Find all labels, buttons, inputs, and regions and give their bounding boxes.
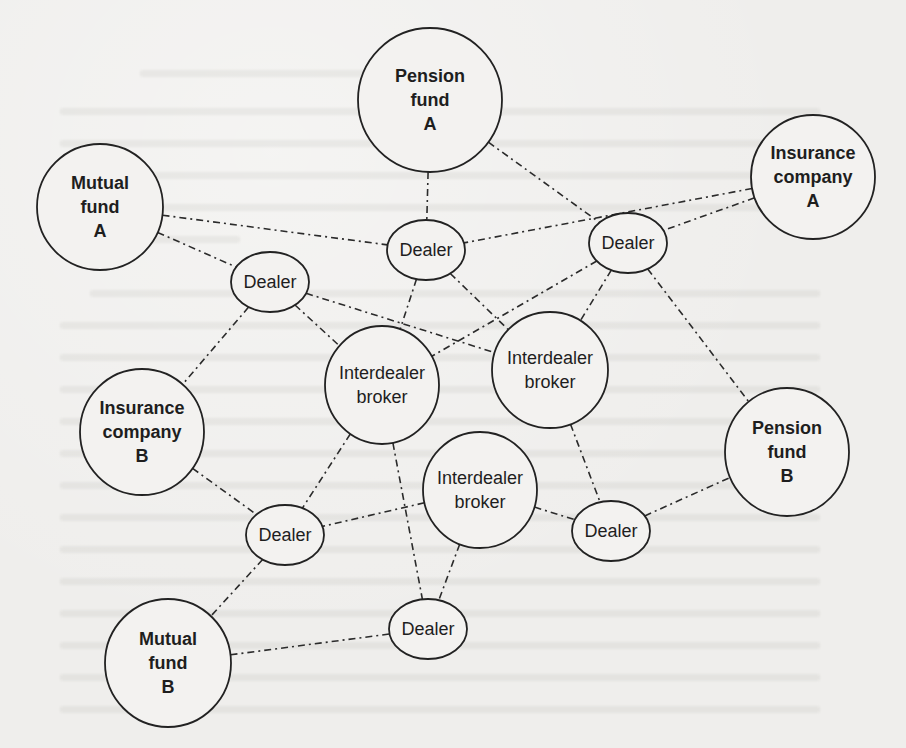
node-label-line: Dealer — [601, 233, 654, 253]
edge-dealer_top_right-to-pension_fund_b — [648, 269, 749, 402]
node-label-line: fund — [768, 442, 807, 462]
edge-interdealer_broker_center-to-dealer_lower_left — [302, 434, 350, 508]
node-label-line: A — [94, 221, 107, 241]
edge-dealer_lower_left-to-mutual_fund_b — [211, 560, 263, 617]
node-label-line: broker — [454, 492, 505, 512]
edge-interdealer_broker_lower-to-dealer_bottom — [439, 544, 460, 600]
node-insurance-company-a: InsurancecompanyA — [751, 115, 875, 239]
node-label-line: broker — [356, 387, 407, 407]
node-interdealer-broker-center: Interdealerbroker — [325, 326, 439, 444]
node-dealer-bottom: Dealer — [389, 599, 467, 659]
node-label-line: Interdealer — [507, 348, 593, 368]
edge-interdealer_broker_right-to-dealer_lower_right — [571, 424, 601, 502]
edge-interdealer_broker_lower-to-dealer_lower_left — [322, 503, 424, 527]
node-mutual-fund-b: MutualfundB — [105, 599, 231, 727]
node-label-line: Dealer — [258, 525, 311, 545]
node-dealer-lower-right: Dealer — [572, 501, 650, 561]
node-interdealer-broker-lower: Interdealerbroker — [423, 432, 537, 548]
node-label-line: Pension — [752, 418, 822, 438]
edge-pension_fund_a-to-dealer_top_right — [488, 142, 599, 222]
node-dealer-top-center: Dealer — [387, 220, 465, 280]
node-pension-fund-b: PensionfundB — [725, 388, 849, 516]
node-label-line: Insurance — [770, 143, 855, 163]
edge-dealer_lower_right-to-pension_fund_b — [645, 478, 730, 516]
edge-mutual_fund_a-to-dealer_top_center — [163, 215, 388, 245]
node-label-line: Pension — [395, 66, 465, 86]
edge-dealer_top_right-to-interdealer_broker_right — [580, 270, 611, 321]
node-dealer-top-right: Dealer — [589, 213, 667, 273]
broker-circle — [423, 432, 537, 548]
edge-insurance_company_b-to-dealer_lower_left — [193, 468, 257, 514]
edge-interdealer_broker_lower-to-dealer_lower_right — [535, 507, 575, 520]
edge-interdealer_broker_center-to-dealer_bottom — [393, 443, 423, 599]
edge-dealer_left-to-interdealer_broker_center — [295, 305, 339, 346]
node-label-line: B — [781, 466, 794, 486]
edge-dealer_top_center-to-interdealer_broker_right — [450, 274, 508, 330]
node-dealer-left: Dealer — [231, 252, 309, 312]
node-pension-fund-a: PensionfundA — [358, 28, 502, 172]
node-label-line: A — [424, 114, 437, 134]
node-label-line: Dealer — [399, 240, 452, 260]
node-label-line: Dealer — [584, 521, 637, 541]
node-insurance-company-b: InsurancecompanyB — [80, 369, 204, 495]
edge-pension_fund_a-to-dealer_top_center — [427, 172, 428, 220]
node-label-line: Interdealer — [437, 468, 523, 488]
node-label-line: Interdealer — [339, 363, 425, 383]
node-label-line: company — [102, 422, 181, 442]
node-label-line: B — [136, 446, 149, 466]
edge-insurance_company_a-to-dealer_top_right — [663, 198, 754, 231]
node-interdealer-broker-right: Interdealerbroker — [492, 312, 608, 428]
otc-market-network-diagram: PensionfundAMutualfundAInsurancecompanyA… — [0, 0, 906, 748]
edge-dealer_left-to-insurance_company_b — [183, 307, 249, 384]
broker-circle — [492, 312, 608, 428]
node-dealer-lower-left: Dealer — [246, 505, 324, 565]
broker-circle — [325, 326, 439, 444]
edge-dealer_top_center-to-interdealer_broker_center — [400, 279, 416, 329]
node-label-line: Dealer — [401, 619, 454, 639]
edge-mutual_fund_b-to-dealer_bottom — [231, 634, 390, 655]
node-label-line: fund — [149, 653, 188, 673]
node-label-line: A — [807, 191, 820, 211]
edge-mutual_fund_a-to-dealer_left — [158, 232, 237, 267]
node-label-line: fund — [81, 197, 120, 217]
node-label-line: fund — [411, 90, 450, 110]
node-label-line: broker — [524, 372, 575, 392]
node-label-line: Insurance — [99, 398, 184, 418]
participant-nodes: PensionfundAMutualfundAInsurancecompanyA… — [37, 28, 875, 727]
node-label-line: B — [162, 677, 175, 697]
node-label-line: Mutual — [139, 629, 197, 649]
node-mutual-fund-a: MutualfundA — [37, 144, 163, 270]
node-label-line: Mutual — [71, 173, 129, 193]
connection-lines — [158, 142, 755, 655]
node-label-line: company — [773, 167, 852, 187]
node-label-line: Dealer — [243, 272, 296, 292]
